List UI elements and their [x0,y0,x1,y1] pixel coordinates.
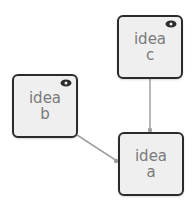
eye-icon[interactable] [60,79,72,87]
node-idea-c[interactable]: idea c [117,15,183,79]
edge-b-a [77,135,117,161]
node-label-line1: idea [29,90,61,106]
node-idea-a[interactable]: idea a [118,132,184,196]
node-label-line2: c [146,47,154,63]
node-idea-b[interactable]: idea b [12,74,78,138]
node-label-line2: b [40,106,50,122]
node-label-line2: a [146,164,155,180]
node-label-line1: idea [134,31,166,47]
eye-icon[interactable] [165,20,177,28]
node-label-line1: idea [135,148,167,164]
